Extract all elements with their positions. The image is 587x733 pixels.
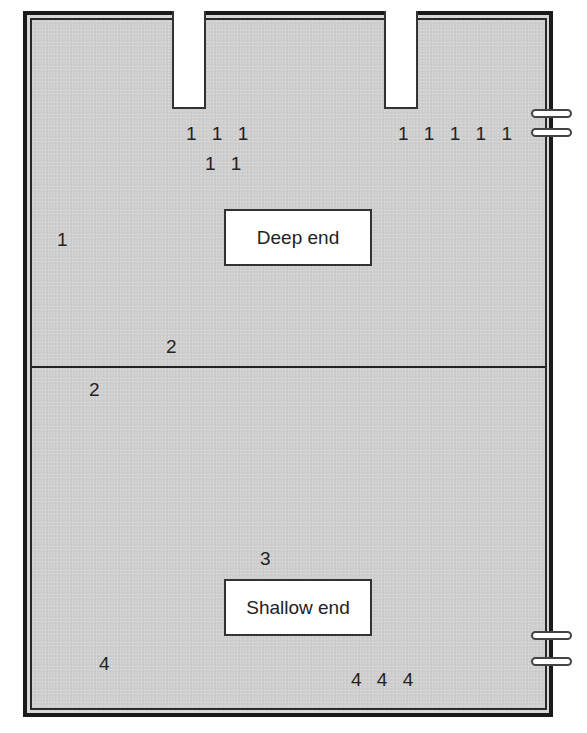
- marker-single: 2: [89, 380, 105, 399]
- shallow-end-text: Shallow end: [246, 597, 350, 619]
- deep-shallow-divider-line: [32, 366, 545, 368]
- deep-end-label: Deep end: [224, 209, 372, 266]
- marker-group: 4 4 4: [351, 670, 418, 689]
- diving-board-left: [172, 11, 206, 109]
- marker-group: 1 1: [205, 154, 246, 173]
- ladder-bottom-rung-upper: [531, 631, 572, 640]
- diving-board-right: [384, 11, 418, 109]
- ladder-top-rung-1: [531, 128, 572, 137]
- ladder-top-rung-upper: [531, 109, 572, 118]
- ladder-bottom-rung-lower: [531, 657, 572, 666]
- marker-single: 2: [166, 337, 182, 356]
- marker-single: 3: [260, 549, 276, 568]
- deep-end-text: Deep end: [257, 227, 339, 249]
- shallow-end-label: Shallow end: [224, 579, 372, 636]
- marker-single: 1: [57, 230, 73, 249]
- marker-group: 1 1 1: [186, 124, 253, 143]
- marker-group: 1 1 1 1 1: [398, 124, 517, 143]
- marker-single: 4: [99, 654, 115, 673]
